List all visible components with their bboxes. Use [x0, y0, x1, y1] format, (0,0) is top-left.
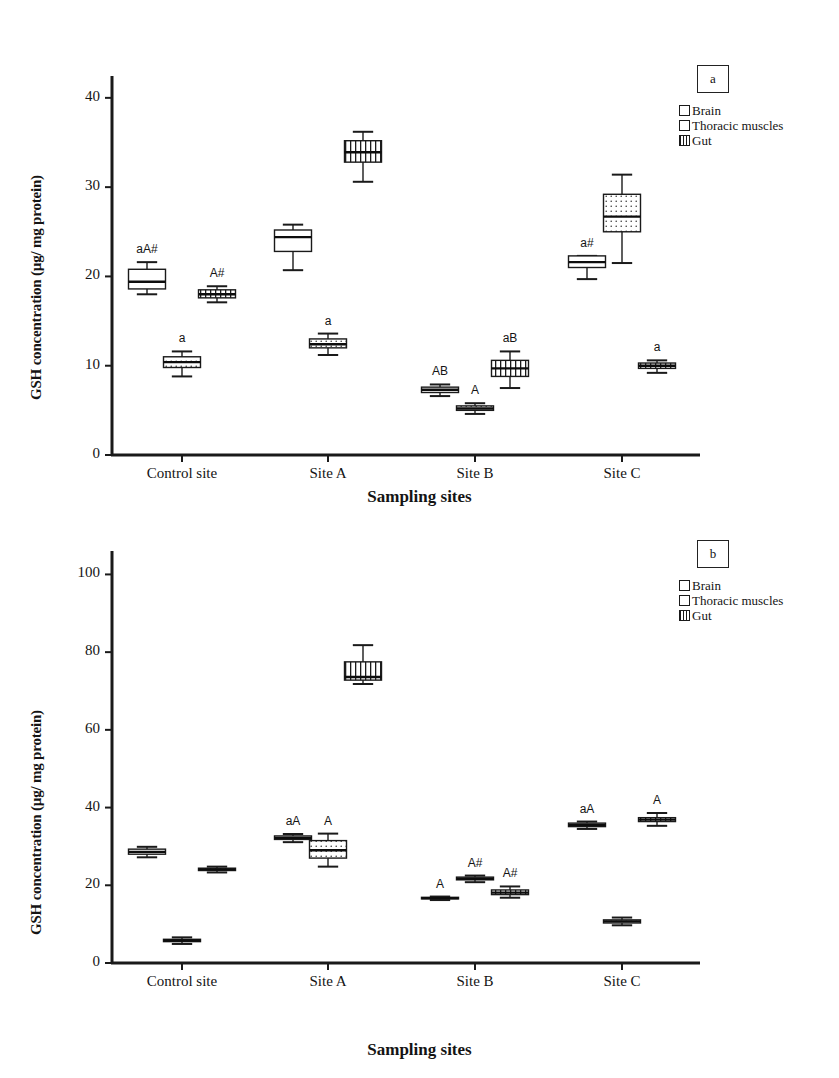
x-tick-label: Site B — [405, 973, 545, 990]
x-tick-label: Site C — [552, 973, 692, 990]
significance-annotation: A — [288, 814, 368, 828]
y-axis-title-b: GSH concentration (µg/ mg protein) — [28, 710, 45, 935]
box-brain-0 — [129, 262, 166, 294]
legend-swatch-gut-icon — [679, 610, 690, 621]
legend-swatch-brain-icon — [679, 580, 690, 591]
y-tick-label: 30 — [52, 177, 100, 194]
significance-annotation: A — [435, 383, 515, 397]
box-gut-2 — [492, 886, 529, 897]
legend-swatch-thoracic-muscles-icon — [679, 595, 690, 606]
box-thoracic-muscles-1 — [310, 334, 347, 355]
significance-annotation: aB — [470, 331, 550, 345]
x-axis-title-b: Sampling sites — [0, 1040, 839, 1060]
y-tick-label: 0 — [52, 445, 100, 462]
legend-a: Brain Thoracic muscles Gut — [679, 103, 783, 148]
significance-annotation: A# — [470, 866, 550, 880]
legend-item-gut: Gut — [679, 133, 783, 148]
y-tick-label: 0 — [52, 953, 100, 970]
legend-swatch-gut-icon — [679, 135, 690, 146]
box-brain-1 — [275, 834, 312, 842]
legend-label-thoracic-muscles: Thoracic muscles — [692, 593, 783, 609]
box-thoracic-muscles-3 — [604, 918, 641, 926]
y-tick-label: 40 — [52, 88, 100, 105]
significance-annotation: a — [142, 331, 222, 345]
box-thoracic-muscles-0 — [164, 937, 201, 944]
box-thoracic-muscles-2 — [457, 403, 494, 414]
box-gut-0 — [199, 867, 236, 873]
y-tick-label: 60 — [52, 720, 100, 737]
y-tick-label: 80 — [52, 642, 100, 659]
legend-item-thoracic-muscles: Thoracic muscles — [679, 593, 783, 608]
box-gut-3 — [639, 813, 676, 826]
box-brain-0 — [129, 847, 166, 857]
x-axis-title-a: Sampling sites — [0, 487, 839, 507]
y-tick-label: 40 — [52, 798, 100, 815]
legend-item-gut: Gut — [679, 608, 783, 623]
box-brain-2 — [422, 897, 459, 900]
legend-b: Brain Thoracic muscles Gut — [679, 578, 783, 623]
legend-item-brain: Brain — [679, 578, 783, 593]
y-tick-label: 20 — [52, 266, 100, 283]
significance-annotation: AB — [400, 364, 480, 378]
legend-swatch-brain-icon — [679, 105, 690, 116]
y-tick-label: 100 — [52, 564, 100, 581]
figure-page: GSH concentration (µg/ mg protein) Sampl… — [0, 0, 839, 1078]
x-tick-label: Site B — [405, 465, 545, 482]
panel-tag-a: a — [697, 65, 729, 93]
legend-label-brain: Brain — [692, 103, 721, 119]
legend-swatch-thoracic-muscles-icon — [679, 120, 690, 131]
box-gut-3 — [639, 360, 676, 373]
legend-label-gut: Gut — [692, 133, 712, 149]
significance-annotation: aA# — [107, 242, 187, 256]
panel-b: GSH concentration (µg/ mg protein) Sampl… — [0, 520, 839, 1078]
box-thoracic-muscles-0 — [164, 351, 201, 376]
significance-annotation: aA — [547, 802, 627, 816]
box-gut-0 — [199, 286, 236, 302]
box-brain-1 — [275, 225, 312, 271]
y-axis-title-a: GSH concentration (µg/ mg protein) — [28, 175, 45, 400]
y-tick-label: 20 — [52, 875, 100, 892]
box-gut-1 — [345, 645, 382, 684]
panel-a: GSH concentration (µg/ mg protein) Sampl… — [0, 0, 839, 520]
legend-label-brain: Brain — [692, 578, 721, 594]
box-gut-1 — [345, 132, 382, 182]
y-tick-label: 10 — [52, 356, 100, 373]
legend-label-thoracic-muscles: Thoracic muscles — [692, 118, 783, 134]
significance-annotation: a# — [547, 236, 627, 250]
significance-annotation: a — [617, 340, 697, 354]
legend-item-thoracic-muscles: Thoracic muscles — [679, 118, 783, 133]
x-tick-label: Control site — [112, 465, 252, 482]
box-brain-3 — [569, 822, 606, 829]
box-brain-3 — [569, 256, 606, 279]
significance-annotation: A — [617, 793, 697, 807]
significance-annotation: a — [288, 314, 368, 328]
legend-label-gut: Gut — [692, 608, 712, 624]
significance-annotation: A — [400, 877, 480, 891]
x-tick-label: Site C — [552, 465, 692, 482]
x-tick-label: Site A — [258, 973, 398, 990]
box-thoracic-muscles-1 — [310, 834, 347, 867]
x-tick-label: Site A — [258, 465, 398, 482]
significance-annotation: A# — [177, 266, 257, 280]
x-tick-label: Control site — [112, 973, 252, 990]
legend-item-brain: Brain — [679, 103, 783, 118]
panel-tag-b: b — [697, 540, 729, 568]
